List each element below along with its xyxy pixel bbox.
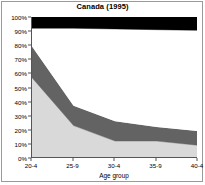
y-tick-label: 90% bbox=[15, 28, 27, 35]
y-tick-label: 60% bbox=[15, 70, 27, 77]
x-tick-label: 40-4 bbox=[191, 162, 203, 169]
stacked-area-plot bbox=[32, 17, 197, 158]
y-tick-label: 50% bbox=[15, 84, 27, 91]
chart-figure: Canada (1995) 0%10%20%30%40%50%60%70%80%… bbox=[0, 0, 205, 185]
x-tick-mark bbox=[155, 158, 156, 161]
y-tick-label: 30% bbox=[15, 112, 27, 119]
plot-area bbox=[31, 17, 197, 158]
x-tick-mark bbox=[197, 158, 198, 161]
chart-title: Canada (1995) bbox=[0, 2, 205, 11]
x-tick-mark bbox=[72, 158, 73, 161]
x-tick-label: 25-9 bbox=[66, 162, 78, 169]
x-tick-mark bbox=[31, 158, 32, 161]
x-tick-label: 30-4 bbox=[108, 162, 120, 169]
y-tick-label: 20% bbox=[15, 126, 27, 133]
x-tick-mark bbox=[114, 158, 115, 161]
x-tick-label: 20-4 bbox=[25, 162, 37, 169]
y-tick-label: 10% bbox=[15, 140, 27, 147]
x-axis-label: Age group bbox=[31, 172, 197, 179]
y-axis: 0%10%20%30%40%50%60%70%80%90%100% bbox=[0, 0, 31, 185]
area-band-band-4-black bbox=[32, 17, 197, 30]
y-tick-label: 80% bbox=[15, 42, 27, 49]
x-tick-label: 35-9 bbox=[149, 162, 161, 169]
y-tick-label: 40% bbox=[15, 98, 27, 105]
y-tick-label: 0% bbox=[18, 155, 27, 162]
y-tick-label: 100% bbox=[11, 14, 27, 21]
y-tick-label: 70% bbox=[15, 56, 27, 63]
